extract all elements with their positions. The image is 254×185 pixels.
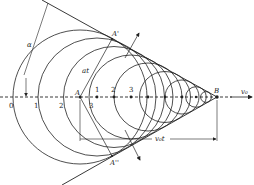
source-label: A [74, 89, 80, 97]
left-mark-2: 2 [59, 102, 63, 110]
right-mark-1: 1 [95, 86, 99, 94]
radius-label: at [82, 67, 89, 75]
cone-lower-line [62, 97, 217, 185]
left-mark-1: 1 [34, 102, 38, 110]
apex-label: B [213, 87, 219, 95]
distance-label: v₀t [155, 135, 165, 143]
angle-label: α [27, 41, 32, 49]
lower-mark-3: 3 [89, 102, 93, 110]
tangent-lower-label: A'' [109, 159, 119, 167]
left-mark-0: 0 [9, 102, 13, 110]
velocity-label: v₀ [241, 88, 248, 96]
right-mark-3: 3 [129, 86, 133, 94]
right-mark-2: 2 [111, 86, 115, 94]
radius-line-lower [80, 97, 112, 156]
tangent-upper-label: A' [111, 30, 119, 38]
mach-cone-diagram: 0 1 2 A 1 2 3 3 B v₀ A' A'' at α v₀t [0, 0, 254, 185]
angle-dimension-line [24, 3, 48, 75]
cone-upper-line [42, 0, 217, 97]
